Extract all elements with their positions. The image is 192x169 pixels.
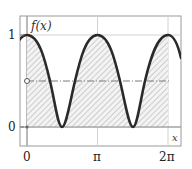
y-axis-label: f(x) xyxy=(30,19,52,33)
x-tick-label-zero: 0 xyxy=(23,150,31,164)
x-tick-label-pi: π xyxy=(93,150,101,164)
y-tick-label-zero: 0 xyxy=(8,120,16,134)
midline-open-marker xyxy=(25,79,30,84)
x-tick-label-two-pi: 2π xyxy=(159,150,175,164)
function-plot: f(x) x 1 0 0 π 2π xyxy=(0,0,192,169)
y-tick-label-one: 1 xyxy=(8,28,16,42)
x-axis-label: x xyxy=(172,132,178,143)
origin-dot-marker xyxy=(25,125,28,128)
